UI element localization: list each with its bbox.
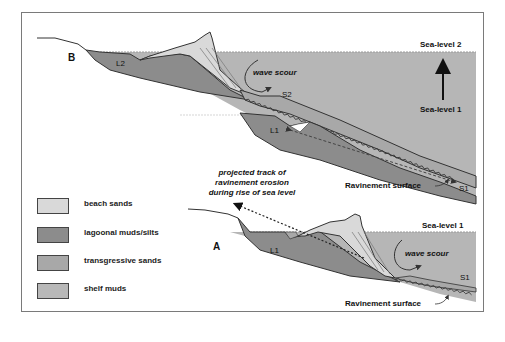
wave-scour-label-a: wave scour <box>405 249 449 258</box>
legend-item-beach-sands: beach sands <box>37 198 237 216</box>
l1-label-b: L1 <box>270 126 279 135</box>
swatch-beach-sands <box>37 198 69 214</box>
legend-label: transgressive sands <box>84 256 161 265</box>
s1-label-b: S1 <box>459 184 469 193</box>
wave-scour-label-b: wave scour <box>253 68 297 77</box>
s2-label: S2 <box>282 90 292 99</box>
l2-label: L2 <box>116 59 125 68</box>
land-surface-b <box>37 38 86 50</box>
ravinement-surface-label-a: Ravinement surface <box>345 299 422 308</box>
legend-item-shelf-muds: shelf muds <box>37 283 237 301</box>
swatch-shelf-muds <box>37 283 69 299</box>
projected-track-text-1: projected track of <box>217 168 286 177</box>
panel-b-label: B <box>68 52 75 63</box>
legend-label: lagoonal muds/silts <box>84 228 159 237</box>
projected-track-text-3: during rise of sea level <box>209 188 296 197</box>
projected-track-text-2: ravinement erosion <box>215 178 289 187</box>
sea-level-2-label: Sea-level 2 <box>420 40 462 49</box>
swatch-transgressive-sands <box>37 255 69 271</box>
s1-label-a: S1 <box>460 273 470 282</box>
sea-level-1-label-a: Sea-level 1 <box>422 221 464 230</box>
legend-item-transgressive-sands: transgressive sands <box>37 255 237 273</box>
sea-level-1-label-b: Sea-level 1 <box>420 105 462 114</box>
ravinement-surface-label-b: Ravinement surface <box>345 181 422 190</box>
swatch-lagoonal-muds <box>37 227 69 243</box>
legend-item-lagoonal-muds: lagoonal muds/silts <box>37 227 237 245</box>
l1-label-a: L1 <box>270 246 279 255</box>
legend-label: beach sands <box>84 199 132 208</box>
legend-label: shelf muds <box>84 284 126 293</box>
